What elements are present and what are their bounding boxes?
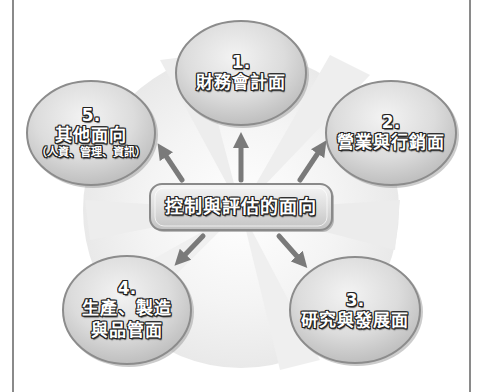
node-5-other-aspects: 5. 其他面向 （人資、管理、資訊） [27, 81, 155, 185]
node-1-number: 1. [232, 53, 250, 73]
node-5-sublabel: （人資、管理、資訊） [36, 147, 146, 160]
node-2-sales-marketing: 2. 營業與行銷面 [326, 81, 456, 185]
node-2-label: 營業與行銷面 [337, 133, 445, 153]
node-5-number: 5. [82, 106, 100, 126]
node-1-financial-accounting: 1. 財務會計面 [176, 21, 306, 125]
center-topic: 控制與評估的面向 [150, 184, 332, 230]
node-3-number: 3. [346, 291, 364, 311]
center-topic-label: 控制與評估的面向 [165, 197, 317, 218]
node-3-label: 研究與發展面 [301, 311, 409, 331]
node-3-research-development: 3. 研究與發展面 [290, 258, 420, 364]
node-1-label: 財務會計面 [196, 73, 286, 93]
node-2-number: 2. [382, 113, 400, 133]
node-4-label-line1: 生產、製造 [82, 299, 172, 319]
node-4-production-quality: 4. 生產、製造 與品管面 [63, 256, 191, 364]
node-4-label-line2: 與品管面 [91, 321, 163, 341]
node-5-label: 其他面向 [55, 126, 127, 146]
node-4-number: 4. [118, 279, 136, 299]
